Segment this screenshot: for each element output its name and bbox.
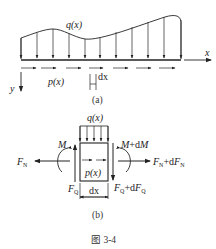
block-axial-label: p(x) [84,167,102,179]
width-label: dx [89,185,99,196]
right-moment-label: M+dM [120,139,149,150]
panel-a: x p(x) dx y q(x) (a) [9,16,211,106]
load-label: q(x) [66,19,83,31]
panel-a-label: (a) [92,95,103,106]
element-label: dx [98,71,108,82]
figure-caption: 图 3-4 [91,235,116,245]
left-normal-label: FN [16,156,28,168]
right-normal-label: FN+dFN [152,156,185,168]
right-shear-label: FQ+dFQ [113,182,146,194]
axial-load-label: p(x) [47,76,65,88]
dx-marks [90,74,96,90]
beam-diagram: x p(x) dx y q(x) (a) q(x) [0,0,216,249]
panel-b-label: (b) [92,210,103,221]
panel-b: q(x) p(x) FQ FQ+dFQ M M+dM FN [16,112,185,221]
left-shear-label: FQ [67,183,79,195]
x-axis-label: x [204,47,210,58]
y-axis-label: y [9,83,15,94]
left-moment-arc [58,148,68,172]
load-curve-q [21,16,181,59]
left-moment-label: M [57,139,67,150]
block-load-label: q(x) [87,112,104,124]
right-moment-arc [120,148,130,172]
